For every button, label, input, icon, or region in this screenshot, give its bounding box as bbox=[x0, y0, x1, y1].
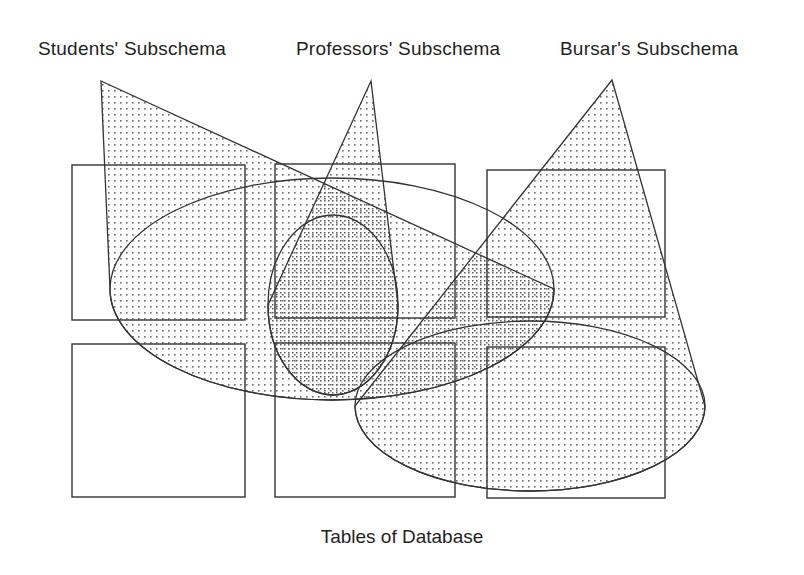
label-students-subschema: Students' Subschema bbox=[38, 38, 226, 60]
label-tables-of-database: Tables of Database bbox=[0, 526, 804, 548]
label-professors-subschema: Professors' Subschema bbox=[296, 38, 500, 60]
cone-shapes-layer bbox=[101, 80, 705, 491]
diagram-canvas bbox=[0, 0, 804, 575]
label-bursar-subschema: Bursar's Subschema bbox=[560, 38, 738, 60]
subschema-venn-diagram: Students' Subschema Professors' Subschem… bbox=[0, 0, 804, 575]
